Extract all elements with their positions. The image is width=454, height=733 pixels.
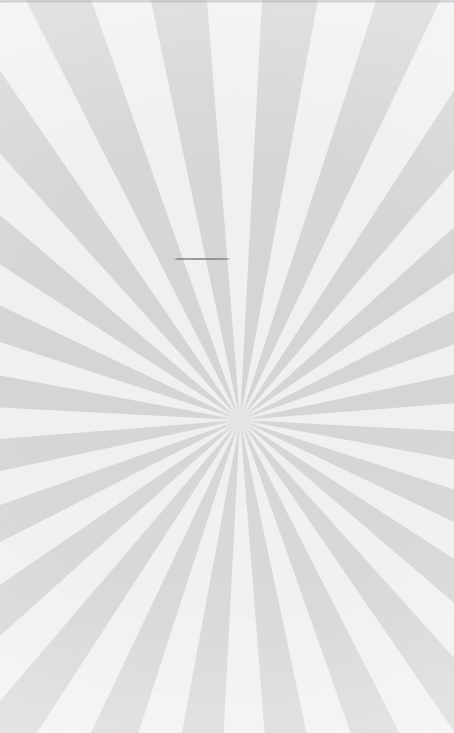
screenshot-stage: [0, 0, 454, 733]
sunburst-pattern: [0, 0, 454, 733]
